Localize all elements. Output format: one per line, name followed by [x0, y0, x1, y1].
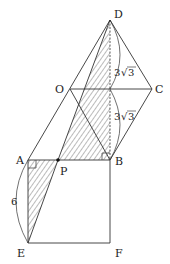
svg-text:3: 3 [128, 111, 134, 122]
label-o: O [55, 83, 64, 96]
label-f: F [115, 247, 123, 260]
arc-lower-measure [110, 89, 120, 160]
svg-text:√: √ [121, 67, 128, 78]
label-b: B [115, 155, 123, 168]
label-d: D [114, 8, 123, 21]
label-c: C [155, 83, 163, 96]
arc-ae-measure [16, 160, 28, 243]
label-a: A [15, 154, 25, 167]
label-p: P [60, 165, 68, 178]
segment-dc [110, 20, 152, 89]
geometry-diagram: D O C A P B E F 3 √ 3 3 √ 3 6 [0, 0, 170, 264]
point-p-dot [56, 158, 60, 162]
label-e: E [17, 247, 25, 260]
measure-upper: 3 √ 3 [114, 67, 136, 78]
svg-text:3: 3 [128, 67, 134, 78]
svg-text:√: √ [121, 111, 128, 122]
measure-ae: 6 [11, 196, 17, 207]
arc-upper-measure [110, 20, 120, 89]
svg-text:3: 3 [114, 67, 120, 78]
svg-text:3: 3 [114, 111, 120, 122]
measure-lower: 3 √ 3 [114, 111, 136, 122]
segment-cb [110, 89, 152, 160]
